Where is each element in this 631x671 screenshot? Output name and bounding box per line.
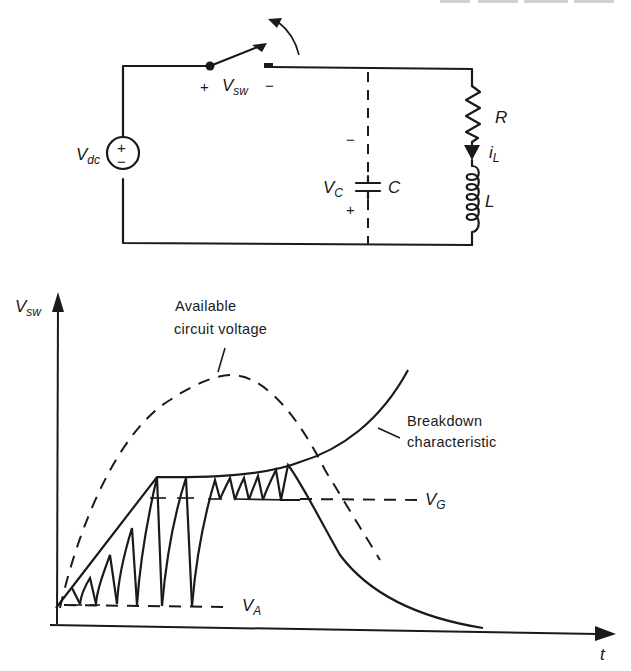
breakdown-annotation-line1: Breakdown [407, 413, 482, 429]
breakdown-annotation-line2: characteristic [407, 434, 497, 450]
capacitor-icon [356, 176, 380, 199]
x-axis-label: t [600, 645, 606, 664]
va-level-line [64, 605, 232, 607]
capacitor-voltage-label: VC [323, 178, 343, 200]
available-voltage-leader [218, 348, 225, 372]
available-voltage-curve [60, 375, 380, 608]
y-axis [57, 300, 58, 624]
switch-open-arrow-icon [268, 18, 299, 55]
wire-left-bottom [123, 179, 472, 245]
circuit-schematic: + − Vdc + Vsw − − [76, 18, 507, 245]
switch-voltage-sawtooth [70, 465, 483, 628]
current-label: iL [489, 143, 499, 165]
arc-breakdown-diagram: + − Vdc + Vsw − − [0, 0, 631, 671]
x-axis [50, 625, 598, 634]
resistor-icon [466, 86, 480, 142]
capacitor-minus-sign: − [346, 131, 355, 148]
switch-minus-sign: − [265, 77, 274, 94]
capacitor-label: C [388, 178, 401, 197]
y-axis-arrow-icon [52, 292, 64, 312]
switch-plus-sign: + [200, 78, 209, 95]
capacitor-plus-sign-lower: + [346, 201, 355, 218]
current-arrow-icon [464, 142, 480, 160]
vg-label: VG [425, 490, 446, 512]
header-fragment [440, 0, 614, 3]
inductor-label: L [485, 192, 494, 211]
available-annotation-line1: Available [175, 298, 236, 314]
x-axis-arrow-icon [595, 626, 616, 641]
dc-source-icon: + − [107, 137, 139, 170]
va-label: VA [242, 596, 261, 618]
inductor-icon [467, 160, 479, 245]
vg-level-line [300, 499, 420, 500]
breakdown-graph: Vsw t Available circuit voltage Breakdow… [15, 292, 616, 664]
switch-icon [206, 43, 274, 71]
source-label: Vdc [76, 145, 100, 167]
source-minus-sign: − [117, 153, 126, 170]
y-axis-label: Vsw [15, 297, 42, 319]
breakdown-leader [378, 428, 400, 438]
resistor-label: R [495, 108, 507, 127]
switch-voltage-label: Vsw [222, 76, 249, 98]
wire-top-right [270, 67, 472, 86]
available-annotation-line2: circuit voltage [174, 321, 267, 337]
